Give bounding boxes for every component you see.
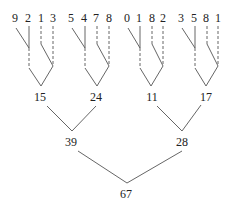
digit: 2 bbox=[160, 12, 166, 24]
tree-lines bbox=[0, 0, 232, 213]
digit: 1 bbox=[215, 12, 221, 24]
digit: 5 bbox=[191, 12, 197, 24]
root-sum: 67 bbox=[120, 188, 132, 200]
level2-sum: 39 bbox=[65, 136, 77, 148]
digit: 9 bbox=[12, 12, 18, 24]
digit: 7 bbox=[93, 12, 99, 24]
group-sum: 11 bbox=[146, 91, 158, 103]
sum-tree-diagram: 9 2 1 3 5 4 7 8 0 1 8 2 3 5 8 1 15 24 11… bbox=[0, 0, 232, 213]
group-sum: 24 bbox=[90, 91, 102, 103]
digit: 5 bbox=[68, 12, 74, 24]
digit: 3 bbox=[50, 12, 56, 24]
digit: 8 bbox=[106, 12, 112, 24]
group-sum: 17 bbox=[200, 91, 212, 103]
digit: 0 bbox=[124, 12, 130, 24]
digit: 3 bbox=[178, 12, 184, 24]
digit: 8 bbox=[149, 12, 155, 24]
digit: 2 bbox=[25, 12, 31, 24]
digit: 4 bbox=[81, 12, 87, 24]
digit: 1 bbox=[136, 12, 142, 24]
group-sum: 15 bbox=[34, 91, 46, 103]
level2-sum: 28 bbox=[176, 136, 188, 148]
digit: 8 bbox=[203, 12, 209, 24]
digit: 1 bbox=[38, 12, 44, 24]
